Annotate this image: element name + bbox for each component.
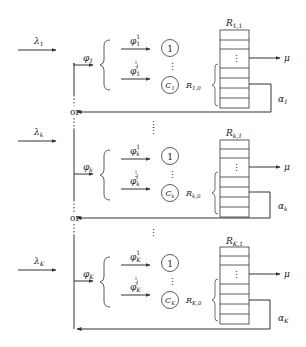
block-k: λk φk φ1k ⋮ φlk 1 ⋮ Ck Rk,1 ⋮ Rk,0 μ αk … <box>18 126 290 238</box>
buffer-brace <box>212 279 218 321</box>
queueing-diagram: or or λ1 φ1 φ11 ⋮ φl1 1 ⋮ C1 R1,1 <box>0 0 306 347</box>
phi-label: φK <box>83 269 94 280</box>
server-label-first: 1 <box>167 259 173 269</box>
subflow-label-first: φ1K <box>130 249 141 263</box>
subflow-label-first: φ11 <box>130 33 140 47</box>
buffer-brace <box>212 172 218 214</box>
subflow-label-first: φ1k <box>130 143 140 157</box>
buffer-bottom-label: R1,0 <box>185 81 201 91</box>
vertical-ellipsis: ⋮ <box>149 228 158 238</box>
server-label-first: 1 <box>167 152 173 162</box>
alpha-label: αK <box>278 313 289 324</box>
service-rate-label: μ <box>284 162 290 172</box>
phi-label: φk <box>83 162 93 173</box>
buffer-brace <box>212 64 218 106</box>
buffer-box <box>220 247 249 324</box>
buffer-box <box>220 30 249 108</box>
curly-brace <box>100 257 110 307</box>
buffer-bottom-label: RK,0 <box>185 296 202 306</box>
buffer-top-label: RK,1 <box>225 236 243 247</box>
arrival-label: λk <box>33 127 44 138</box>
buffer-top-label: Rk,1 <box>225 128 242 139</box>
server-label-first: 1 <box>167 44 173 54</box>
alpha-label: αk <box>278 201 288 212</box>
vertical-ellipsis: ⋮ <box>168 277 177 287</box>
vertical-ellipsis: ⋮ <box>232 163 241 173</box>
buffer-bottom-label: Rk,0 <box>185 189 201 199</box>
block-K: λK φK φ1K ⋮ φlK 1 ⋮ CK RK,1 ⋮ RK,0 μ αK <box>18 236 290 329</box>
buffer-top-label: R1,1 <box>225 18 242 29</box>
vertical-ellipsis: ⋮ <box>232 54 241 64</box>
vertical-ellipsis: ⋮ <box>232 270 241 280</box>
curly-brace <box>100 40 110 90</box>
phi-label: φ1 <box>83 53 93 64</box>
arrival-label: λK <box>33 256 45 267</box>
vertical-ellipsis: ⋮ <box>149 126 158 136</box>
vertical-ellipsis: ⋮ <box>168 62 177 72</box>
buffer-box <box>220 140 249 217</box>
alpha-label: α1 <box>278 94 288 105</box>
block-1: λ1 φ1 φ11 ⋮ φl1 1 ⋮ C1 R1,1 ⋮ R1,0 <box>18 18 290 130</box>
arrival-label: λ1 <box>33 36 44 47</box>
vertical-ellipsis: ⋮ <box>168 170 177 180</box>
service-rate-label: μ <box>284 53 290 63</box>
curly-brace <box>100 150 110 200</box>
service-rate-label: μ <box>284 269 290 279</box>
